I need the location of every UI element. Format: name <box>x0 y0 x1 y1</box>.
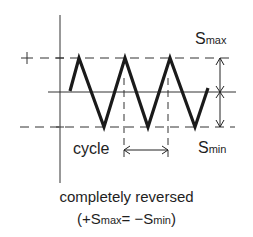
plus-marker <box>21 52 33 64</box>
caption-sub-max: max <box>101 214 122 226</box>
caption-sub-min: min <box>153 214 171 226</box>
smax-label: Smax <box>195 31 226 47</box>
cycle-label: cycle <box>73 141 109 157</box>
smin-label-sub: min <box>209 143 227 155</box>
caption-line-1: completely reversed <box>0 189 253 204</box>
cycle-arrow <box>124 146 168 154</box>
smax-label-base: S <box>195 30 206 47</box>
caption-line-2: (+Smax= −Smin) <box>0 211 253 226</box>
smin-label: Smin <box>198 140 226 156</box>
smax-label-sub: max <box>206 34 227 46</box>
caption-open: (+S <box>77 210 101 227</box>
caption-mid: = −S <box>122 210 154 227</box>
caption-close: ) <box>171 210 176 227</box>
smin-label-base: S <box>198 139 209 156</box>
